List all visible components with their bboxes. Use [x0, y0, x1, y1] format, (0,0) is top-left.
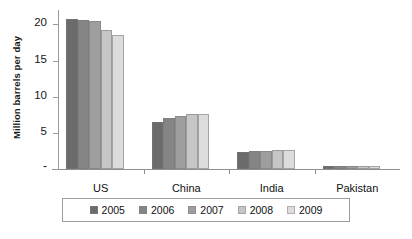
bar-india-2007: [260, 151, 272, 169]
bar-india-2006: [249, 151, 261, 169]
bar-group-india: [237, 10, 295, 169]
x-axis-separator: [229, 169, 230, 174]
y-axis-tick: 10: [53, 97, 59, 98]
legend-item-2007[interactable]: 2007: [188, 204, 223, 216]
bar-pakistan-2009: [369, 166, 381, 169]
bar-us-2006: [78, 20, 90, 169]
y-axis-tick-label: 20: [34, 16, 47, 28]
legend-swatch-icon: [139, 206, 147, 214]
bar-group-pakistan: [323, 10, 381, 169]
y-axis-tick-label: 10: [34, 89, 47, 101]
legend-swatch-icon: [188, 206, 196, 214]
y-axis-line: [58, 10, 59, 169]
plot-area: -5101520 USChinaIndiaPakistan: [58, 10, 400, 169]
bar-us-2008: [101, 30, 113, 169]
x-axis-separator: [144, 169, 145, 174]
bar-pakistan-2008: [357, 166, 369, 169]
bar-pakistan-2006: [334, 166, 346, 169]
bar-us-2005: [66, 19, 78, 169]
y-axis-tick-label: 5: [41, 125, 47, 137]
legend-swatch-icon: [287, 206, 295, 214]
x-axis-separator: [315, 169, 316, 174]
legend-item-2008[interactable]: 2008: [238, 204, 273, 216]
y-axis-tick-label: -: [43, 159, 47, 173]
bar-china-2007: [175, 116, 187, 169]
legend-label: 2007: [200, 204, 223, 216]
legend-label: 2005: [102, 204, 125, 216]
bar-china-2005: [152, 122, 164, 169]
x-axis-label-pakistan: Pakistan: [315, 182, 401, 194]
y-axis-tick: 20: [53, 24, 59, 25]
bar-india-2009: [283, 150, 295, 169]
legend-swatch-icon: [238, 206, 246, 214]
y-axis-title-label: Million barrels per day: [12, 36, 23, 139]
bar-chart: Million barrels per day -5101520 USChina…: [0, 0, 412, 239]
y-axis-title: Million barrels per day: [6, 0, 28, 175]
x-axis-line: [52, 169, 400, 170]
y-axis-tick: 15: [53, 61, 59, 62]
x-axis-label-india: India: [229, 182, 315, 194]
bar-us-2009: [112, 35, 124, 169]
bar-group-china: [152, 10, 210, 169]
legend: 20052006200720082009: [62, 198, 350, 222]
y-axis-tick-label: 15: [34, 53, 47, 65]
legend-item-2006[interactable]: 2006: [139, 204, 174, 216]
bar-china-2008: [186, 114, 198, 169]
bar-us-2007: [89, 21, 101, 169]
bar-china-2009: [198, 114, 210, 169]
bar-pakistan-2007: [346, 166, 358, 169]
x-axis-label-china: China: [144, 182, 230, 194]
bar-group-us: [66, 10, 124, 169]
legend-label: 2009: [299, 204, 322, 216]
legend-item-2009[interactable]: 2009: [287, 204, 322, 216]
legend-label: 2006: [151, 204, 174, 216]
legend-swatch-icon: [90, 206, 98, 214]
x-axis-label-us: US: [58, 182, 144, 194]
y-axis-tick: -: [53, 169, 59, 170]
y-axis-tick: 5: [53, 133, 59, 134]
legend-label: 2008: [250, 204, 273, 216]
bar-india-2005: [237, 152, 249, 169]
bar-pakistan-2005: [323, 166, 335, 169]
bar-india-2008: [272, 150, 284, 169]
legend-item-2005[interactable]: 2005: [90, 204, 125, 216]
bar-china-2006: [163, 118, 175, 169]
